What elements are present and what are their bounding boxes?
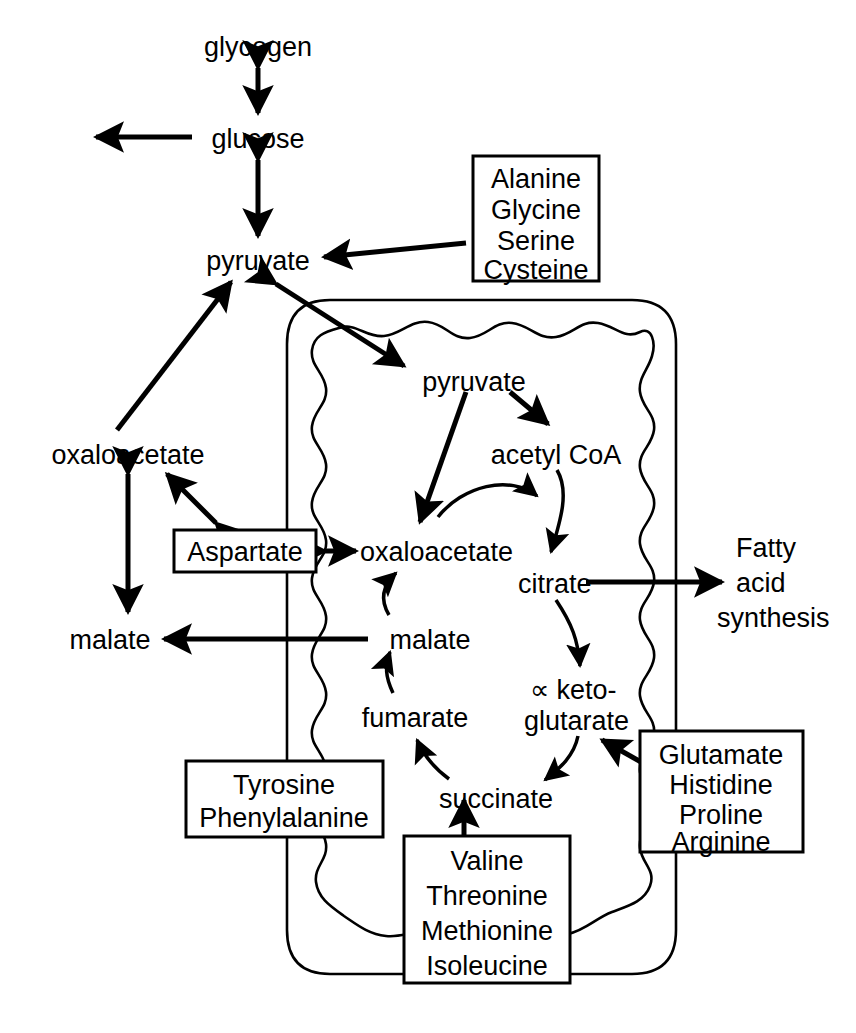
label-fatty-acid-line3: synthesis	[717, 603, 830, 633]
arrow-malate-to-oxaloacetate	[384, 573, 396, 615]
label-pyruvate-mito: pyruvate	[422, 367, 526, 397]
box-item-tyrosine: Tyrosine	[233, 770, 335, 800]
label-succinate: succinate	[439, 784, 553, 814]
arrow-citrate-to-ketoglutarate	[556, 600, 580, 666]
box-item-threonine: Threonine	[426, 881, 548, 911]
box-item-phenylalanine: Phenylalanine	[199, 803, 369, 833]
label-citrate: citrate	[518, 569, 592, 599]
arrow-oxaloacetate-to-citrate	[438, 485, 537, 517]
label-oxaloacetate-mito: oxaloacetate	[360, 537, 513, 567]
label-malate-cytosol: malate	[69, 625, 150, 655]
arrow-aspartate-oxaloacetate-cytosol	[167, 474, 216, 523]
box-item-aspartate: Aspartate	[187, 537, 303, 567]
label-glycogen: glycogen	[204, 32, 312, 62]
label-alpha-ketoglutarate-line1: ∝ keto-	[530, 675, 617, 705]
arrow-pyruvate-transport	[276, 284, 404, 366]
box-item-serine: Serine	[497, 226, 575, 256]
arrow-succinate-to-fumarate	[417, 740, 449, 779]
box-item-glycine: Glycine	[491, 195, 581, 225]
box-item-cysteine: Cysteine	[483, 255, 588, 285]
box-item-methionine: Methionine	[421, 916, 553, 946]
box-item-glutamate: Glutamate	[659, 740, 784, 770]
box-item-alanine: Alanine	[491, 164, 581, 194]
box-item-valine: Valine	[450, 846, 523, 876]
arrow-acetyl-coa-to-citrate	[551, 470, 563, 552]
label-fatty-acid-line2: acid	[736, 568, 786, 598]
arrow-alanine-group-to-pyruvate	[324, 243, 466, 257]
label-glucose: glucose	[211, 124, 304, 154]
label-oxaloacetate-cytosol: oxaloacetate	[51, 440, 204, 470]
label-pyruvate-cytosol: pyruvate	[206, 246, 310, 276]
arrow-fumarate-to-malate	[387, 652, 393, 693]
box-item-histidine: Histidine	[669, 770, 773, 800]
label-malate-mito: malate	[389, 625, 470, 655]
label-alpha-ketoglutarate-line2: glutarate	[524, 706, 629, 736]
label-acetyl-coa: acetyl CoA	[491, 440, 622, 470]
box-item-isoleucine: Isoleucine	[426, 951, 548, 981]
box-item-proline: Proline	[679, 800, 763, 830]
arrow-ketoglutarate-to-succinate	[545, 736, 578, 780]
box-item-arginine: Arginine	[671, 827, 770, 857]
arrow-pyruvate-to-oxaloacetate	[420, 392, 466, 522]
arrow-oxaloacetate-to-pyruvate	[117, 282, 231, 430]
diagram-svg: glycogen glucose pyruvate pyruvate acety…	[0, 0, 856, 1033]
pathway-diagram: glycogen glucose pyruvate pyruvate acety…	[0, 0, 856, 1033]
label-fumarate: fumarate	[362, 703, 469, 733]
label-fatty-acid-line1: Fatty	[736, 533, 797, 563]
